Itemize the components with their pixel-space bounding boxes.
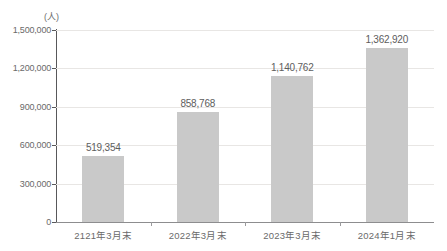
x-axis-tick-mark bbox=[245, 222, 246, 226]
bar-value-label: 1,362,920 bbox=[342, 34, 432, 45]
y-axis-tick-mark bbox=[52, 222, 56, 223]
bar bbox=[271, 76, 313, 222]
x-axis-category-label: 2024年1月末 bbox=[340, 228, 434, 242]
y-axis-tick-mark bbox=[52, 68, 56, 69]
y-axis-tick-label: 600,000 bbox=[20, 140, 51, 150]
bar-value-label: 1,140,762 bbox=[247, 62, 337, 73]
y-axis-tick-mark bbox=[52, 184, 56, 185]
y-axis-unit-label: (人) bbox=[44, 10, 59, 23]
bar-value-label: 858,768 bbox=[153, 98, 243, 109]
y-axis-tick-label: 1,200,000 bbox=[13, 63, 51, 73]
y-axis-tick-label: 900,000 bbox=[20, 102, 51, 112]
y-axis-tick-label: 300,000 bbox=[20, 179, 51, 189]
y-axis-tick-mark bbox=[52, 145, 56, 146]
bar bbox=[177, 112, 219, 222]
bar bbox=[366, 48, 408, 222]
x-axis-tick-mark bbox=[151, 222, 152, 226]
gridline bbox=[56, 30, 434, 31]
bar-chart: (人) 0300,000600,000900,0001,200,0001,500… bbox=[0, 0, 447, 251]
x-axis-category-label: 2023年3月末 bbox=[245, 228, 339, 242]
x-axis-category-label: 2121年3月末 bbox=[56, 228, 150, 242]
x-axis-tick-mark bbox=[340, 222, 341, 226]
bar bbox=[82, 156, 124, 222]
y-axis-tick-label: 1,500,000 bbox=[13, 25, 51, 35]
bar-value-label: 519,354 bbox=[58, 142, 148, 153]
y-axis-tick-mark bbox=[52, 30, 56, 31]
x-axis-category-label: 2022年3月末 bbox=[151, 228, 245, 242]
y-axis-tick-label: 0 bbox=[46, 217, 51, 227]
plot-area: 0300,000600,000900,0001,200,0001,500,000 bbox=[56, 30, 434, 222]
y-axis-tick-mark bbox=[52, 107, 56, 108]
